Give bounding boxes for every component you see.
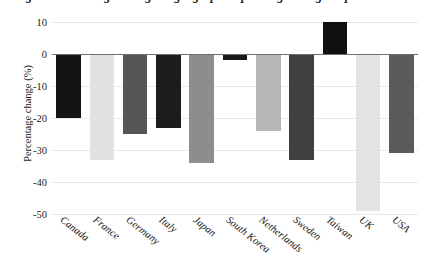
chart-title: Figure: Percentage change in geographic … (14, 0, 418, 4)
y-tick-label: -10 (33, 81, 47, 92)
bar (356, 54, 381, 211)
x-tick-label: France (91, 214, 122, 241)
bar-chart: Figure: Percentage change in geographic … (0, 0, 430, 280)
x-tick-label: Taiwan (324, 214, 355, 241)
bar (156, 54, 181, 128)
bar (123, 54, 148, 134)
y-tick-label: -30 (33, 145, 47, 156)
bar (389, 54, 414, 153)
x-tick-label: Italy (158, 214, 180, 235)
y-axis-label: Percentage change (%) (22, 29, 33, 199)
y-tick-label: 10 (37, 17, 48, 28)
y-tick-label: -20 (33, 113, 47, 124)
bar (90, 54, 115, 160)
plot-area: 100-10-20-30-40-50 (52, 22, 418, 214)
bar-series (52, 22, 418, 214)
x-tick-label: Japan (191, 214, 218, 238)
x-tick-label: Germany (124, 214, 162, 247)
zero-line (52, 54, 418, 55)
bar (189, 54, 214, 163)
y-tick-label: 0 (42, 49, 47, 60)
y-tick-label: -40 (33, 177, 47, 188)
bar (289, 54, 314, 160)
x-axis-ticks: CanadaFranceGermanyItalyJapanSouth Korea… (52, 214, 418, 280)
x-tick-label: UK (357, 214, 375, 232)
bar (256, 54, 281, 131)
x-tick-label: Canada (58, 214, 91, 243)
x-tick-label: USA (391, 214, 413, 235)
y-tick-label: -50 (33, 209, 47, 220)
bar (56, 54, 81, 118)
bar (323, 22, 348, 54)
